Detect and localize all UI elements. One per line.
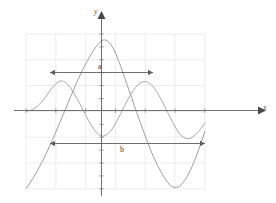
segment-b-label: b (120, 146, 124, 154)
y-axis-arrowhead (98, 11, 106, 19)
sine-wave-graph-figure: x y a b (0, 0, 276, 203)
axes-group (14, 11, 266, 196)
plot-canvas (0, 0, 276, 203)
x-axis-label: x (263, 104, 267, 112)
segment-a-label: a (98, 63, 102, 71)
segment-b-measure (50, 141, 205, 146)
y-axis-label: y (94, 8, 98, 16)
